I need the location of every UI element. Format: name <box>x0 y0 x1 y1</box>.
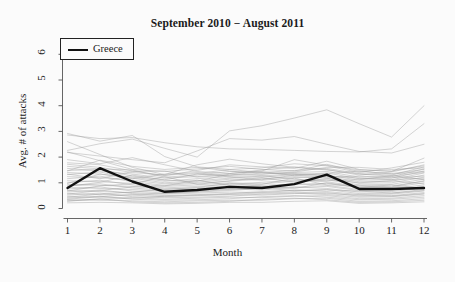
y-tick-label-0: 0 <box>35 199 47 215</box>
x-axis-label: Month <box>0 246 455 258</box>
y-tick-label-6: 6 <box>35 44 47 60</box>
legend-line-swatch <box>68 49 88 51</box>
chart-figure: September 2010 − August 2011 Avg. # of a… <box>0 0 455 282</box>
series-line-bg-02 <box>68 124 425 152</box>
legend: Greece <box>60 38 134 60</box>
x-tick-label-10: 10 <box>348 224 370 236</box>
x-tick-label-2: 2 <box>89 224 111 236</box>
x-tick-label-11: 11 <box>381 224 403 236</box>
x-tick-label-3: 3 <box>121 224 143 236</box>
y-tick-label-4: 4 <box>35 96 47 112</box>
x-tick-label-5: 5 <box>186 224 208 236</box>
x-tick-label-12: 12 <box>413 224 435 236</box>
y-tick-label-1: 1 <box>35 173 47 189</box>
y-tick-label-5: 5 <box>35 70 47 86</box>
x-tick-label-7: 7 <box>251 224 273 236</box>
x-tick-label-8: 8 <box>283 224 305 236</box>
x-tick-label-6: 6 <box>219 224 241 236</box>
chart-title: September 2010 − August 2011 <box>0 17 455 29</box>
x-tick-label-1: 1 <box>57 224 79 236</box>
y-tick-label-3: 3 <box>35 121 47 137</box>
x-tick-label-9: 9 <box>316 224 338 236</box>
legend-label-greece: Greece <box>93 43 123 54</box>
y-axis-label: Avg. # of attacks <box>16 46 28 216</box>
y-tick-label-2: 2 <box>35 147 47 163</box>
x-tick-label-4: 4 <box>154 224 176 236</box>
